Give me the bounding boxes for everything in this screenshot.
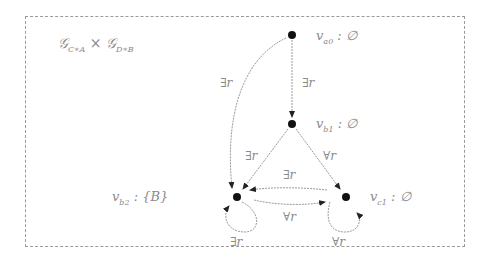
edge-vc1-vb2	[250, 188, 327, 190]
node-va0	[288, 31, 296, 39]
edge-label-vb2-loop: ∃r	[230, 236, 242, 248]
edge-vb2-loop	[226, 202, 257, 232]
edge-label-vb1-vb2: ∃r	[245, 150, 257, 162]
node-vb2	[233, 193, 241, 201]
edge-label-vb1-vc1: ∀r	[323, 150, 336, 162]
edge-vb2-vc1	[254, 200, 325, 204]
edge-label-vc1-vb2: ∃r	[283, 169, 295, 181]
edge-va0-vb2	[230, 38, 286, 188]
node-vc1	[342, 193, 350, 201]
node-label-vb1: vb1 : ∅	[316, 117, 357, 134]
graph-title: 𝒢C∗A × 𝒢D∗B	[58, 35, 134, 54]
edge-label-vc1-loop: ∀r	[332, 236, 345, 248]
edge-label-va0-vb2: ∃r	[220, 77, 232, 89]
edge-vc1-loop	[328, 202, 359, 232]
edge-label-va0-vb1: ∃r	[302, 77, 314, 89]
node-label-vc1: vc1 : ∅	[370, 190, 411, 207]
node-label-va0: va0 : ∅	[316, 29, 357, 46]
edge-label-vb2-vc1: ∀r	[283, 211, 296, 223]
node-label-vb2: vb2 : {B}	[112, 190, 168, 207]
node-vb1	[288, 120, 296, 128]
